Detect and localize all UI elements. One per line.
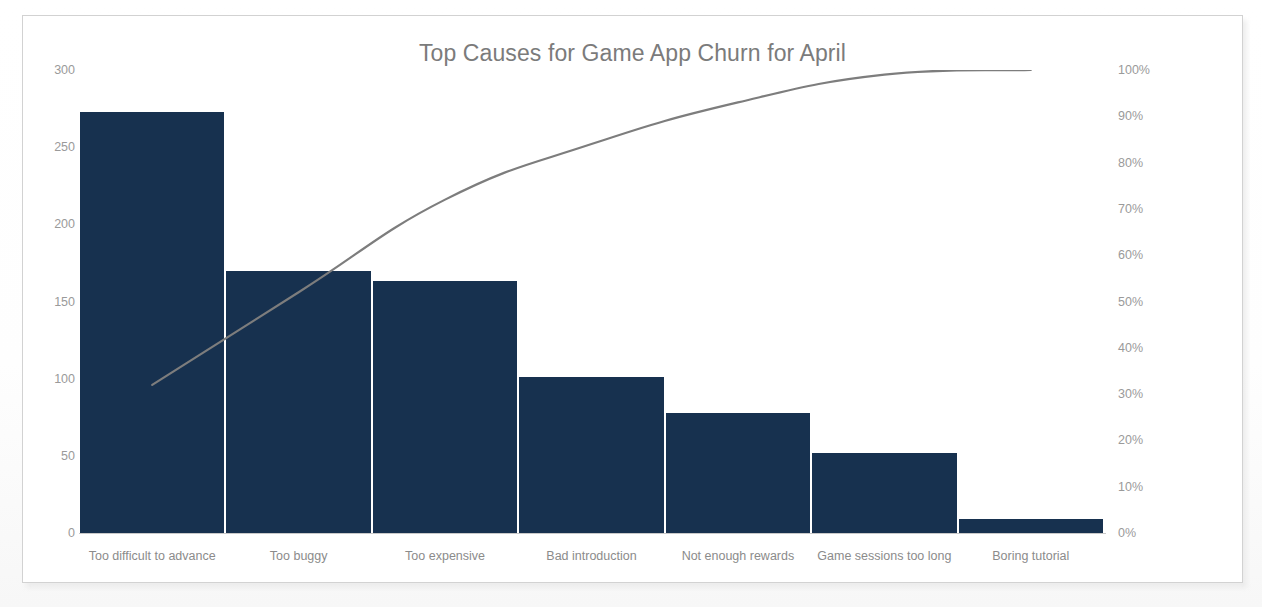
y-axis-right-percent: 100%90%80%70%60%50%40%30%20%10%0% [1112, 70, 1172, 533]
bar-column[interactable] [958, 70, 1104, 533]
bar[interactable] [79, 112, 225, 533]
bar[interactable] [665, 413, 811, 533]
x-axis-label: Bad introduction [546, 549, 636, 563]
y-axis-right-tick: 40% [1118, 341, 1143, 355]
bar[interactable] [225, 271, 371, 533]
y-axis-right-tick: 10% [1118, 480, 1143, 494]
x-axis-label: Too difficult to advance [89, 549, 216, 563]
bar-series [79, 70, 1104, 533]
y-axis-left-tick: 50 [61, 449, 75, 463]
y-axis-right-tick: 70% [1118, 202, 1143, 216]
y-axis-right-tick: 30% [1118, 387, 1143, 401]
bar-column[interactable] [811, 70, 957, 533]
y-axis-right-tick: 50% [1118, 295, 1143, 309]
y-axis-left: 300250200150100500 [29, 70, 75, 533]
x-axis-line [79, 533, 1106, 534]
y-axis-left-tick: 300 [54, 63, 75, 77]
y-axis-left-tick: 200 [54, 217, 75, 231]
y-axis-left-tick: 150 [54, 295, 75, 309]
chart-title: Top Causes for Game App Churn for April [23, 40, 1242, 67]
y-axis-left-tick: 250 [54, 140, 75, 154]
bar-column[interactable] [665, 70, 811, 533]
y-axis-right-tick: 100% [1118, 63, 1150, 77]
y-axis-left-tick: 100 [54, 372, 75, 386]
bar-column[interactable] [79, 70, 225, 533]
x-axis-category-labels: Too difficult to advanceToo buggyToo exp… [79, 543, 1104, 573]
x-axis-label: Game sessions too long [817, 549, 951, 563]
y-axis-right-tick: 80% [1118, 156, 1143, 170]
y-axis-left-tick: 0 [68, 526, 75, 540]
x-axis-label: Not enough rewards [682, 549, 795, 563]
pareto-chart-card: Top Causes for Game App Churn for April … [22, 15, 1243, 583]
y-axis-right-tick: 0% [1118, 526, 1136, 540]
bar-column[interactable] [225, 70, 371, 533]
y-axis-right-tick: 60% [1118, 248, 1143, 262]
y-axis-right-tick: 20% [1118, 433, 1143, 447]
bar[interactable] [958, 519, 1104, 533]
x-axis-label: Too expensive [405, 549, 485, 563]
bar-column[interactable] [518, 70, 664, 533]
y-axis-right-tick: 90% [1118, 109, 1143, 123]
x-axis-label: Too buggy [270, 549, 328, 563]
x-axis-label: Boring tutorial [992, 549, 1069, 563]
bar[interactable] [372, 281, 518, 533]
bar[interactable] [518, 377, 664, 533]
screenshot-root: Top Causes for Game App Churn for April … [0, 0, 1262, 607]
bar[interactable] [811, 453, 957, 533]
bar-column[interactable] [372, 70, 518, 533]
plot-area [79, 70, 1104, 533]
